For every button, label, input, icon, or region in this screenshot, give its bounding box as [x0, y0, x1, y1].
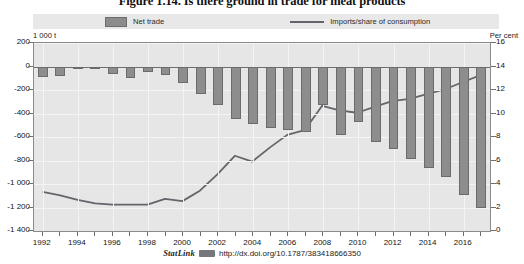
gridline-horizontal	[34, 208, 490, 209]
legend-item-imports-share: Imports/share of consumption	[290, 17, 430, 26]
y-axis-left-tick	[28, 42, 33, 43]
chart-title: Figure 1.14. Is there ground in trade fo…	[0, 0, 524, 9]
zero-axis-line	[34, 67, 490, 68]
y-axis-left-tick-label: -1 200	[0, 202, 30, 211]
x-axis-tick	[428, 232, 429, 236]
gridline-horizontal	[34, 90, 490, 91]
y-axis-right-tick	[491, 183, 496, 184]
x-axis-tick-label: 2010	[342, 238, 372, 247]
x-axis-tick-label: 2002	[202, 238, 232, 247]
figure-footer: StatLinkhttp://dx.doi.org/10.1787/383418…	[0, 248, 524, 258]
y-axis-right-tick-label: 14	[496, 61, 505, 70]
x-axis-tick	[410, 232, 411, 236]
x-axis-tick-label: 1996	[97, 238, 127, 247]
y-axis-left-tick	[28, 160, 33, 161]
bar-net-trade	[283, 67, 293, 130]
y-axis-left-tick	[28, 113, 33, 114]
x-axis-tick	[129, 232, 130, 236]
bar-net-trade	[406, 67, 416, 160]
y-axis-right-tick	[491, 42, 496, 43]
y-axis-left-tick-label: -400	[0, 108, 30, 117]
x-axis-tick	[217, 232, 218, 236]
y-axis-right-tick-label: 16	[496, 37, 505, 46]
y-axis-right-tick-label: 4	[496, 178, 500, 187]
y-axis-left-tick-label: -200	[0, 84, 30, 93]
bar-net-trade	[266, 67, 276, 128]
bar-net-trade	[108, 67, 118, 74]
y-axis-left-tick-label: 0	[0, 61, 30, 70]
statlink-glyph-icon	[199, 250, 215, 257]
x-axis-tick	[463, 232, 464, 236]
y-axis-right-tick-label: 10	[496, 108, 505, 117]
x-axis-tick-label: 2016	[448, 238, 478, 247]
y-axis-right-tick	[491, 89, 496, 90]
y-axis-right-tick	[491, 66, 496, 67]
bar-net-trade	[213, 67, 223, 106]
y-axis-left-tick-label: 200	[0, 37, 30, 46]
x-axis-tick	[252, 232, 253, 236]
y-axis-left-tick	[28, 230, 33, 231]
legend-line-swatch-icon	[290, 21, 324, 23]
legend-label-net-trade: Net trade	[133, 17, 164, 26]
y-axis-left-tick	[28, 183, 33, 184]
gridline-horizontal	[34, 161, 490, 162]
bar-net-trade	[476, 67, 486, 208]
y-axis-left-tick	[28, 89, 33, 90]
bar-net-trade	[143, 67, 153, 72]
x-axis-tick	[287, 232, 288, 236]
x-axis-tick	[165, 232, 166, 236]
x-axis-tick-label: 1994	[62, 238, 92, 247]
gridline-horizontal	[34, 184, 490, 185]
y-axis-left-tick-label: -1 400	[0, 225, 30, 234]
x-axis-tick	[357, 232, 358, 236]
y-axis-right-tick-label: 6	[496, 155, 500, 164]
x-axis-tick-label: 2014	[413, 238, 443, 247]
x-axis-tick	[375, 232, 376, 236]
gridline-vertical	[78, 43, 79, 231]
bar-net-trade	[55, 67, 65, 76]
y-axis-left-tick	[28, 136, 33, 137]
axis-unit-left: 1 000 t	[33, 31, 56, 40]
x-axis-tick-label: 2004	[237, 238, 267, 247]
bar-net-trade	[389, 67, 399, 149]
y-axis-right-tick	[491, 230, 496, 231]
y-axis-right-tick	[491, 160, 496, 161]
legend-item-net-trade: Net trade	[105, 17, 164, 27]
gridline-horizontal	[34, 43, 490, 44]
bar-net-trade	[73, 67, 83, 69]
bar-net-trade	[371, 67, 381, 142]
bar-net-trade	[90, 67, 100, 69]
legend-bar-swatch-icon	[105, 17, 127, 27]
y-axis-right-tick-label: 12	[496, 84, 505, 93]
x-axis-tick-label: 1998	[132, 238, 162, 247]
x-axis-tick	[305, 232, 306, 236]
gridline-horizontal	[34, 114, 490, 115]
gridline-horizontal	[34, 137, 490, 138]
x-axis-tick	[200, 232, 201, 236]
statlink-label: StatLink	[163, 248, 195, 258]
x-axis-tick	[77, 232, 78, 236]
y-axis-left-tick-label: -600	[0, 131, 30, 140]
x-axis-tick	[393, 232, 394, 236]
x-axis-tick-label: 2000	[167, 238, 197, 247]
x-axis-tick	[480, 232, 481, 236]
bar-net-trade	[38, 67, 48, 78]
bar-net-trade	[441, 67, 451, 177]
bar-net-trade	[248, 67, 258, 125]
y-axis-right-tick	[491, 136, 496, 137]
bar-net-trade	[459, 67, 469, 195]
bar-net-trade	[126, 67, 136, 78]
y-axis-right-tick	[491, 113, 496, 114]
bar-net-trade	[178, 67, 188, 83]
bar-net-trade	[231, 67, 241, 120]
gridline-horizontal	[34, 231, 490, 232]
y-axis-right-tick	[491, 207, 496, 208]
x-axis-tick	[340, 232, 341, 236]
x-axis-tick-label: 2012	[378, 238, 408, 247]
x-axis-tick	[270, 232, 271, 236]
figure-container: Figure 1.14. Is there ground in trade fo…	[0, 0, 524, 264]
x-axis-tick	[445, 232, 446, 236]
legend-label-imports-share: Imports/share of consumption	[330, 17, 430, 26]
x-axis-tick-label: 2006	[272, 238, 302, 247]
statlink-url[interactable]: http://dx.doi.org/10.1787/383418666350	[219, 249, 361, 258]
